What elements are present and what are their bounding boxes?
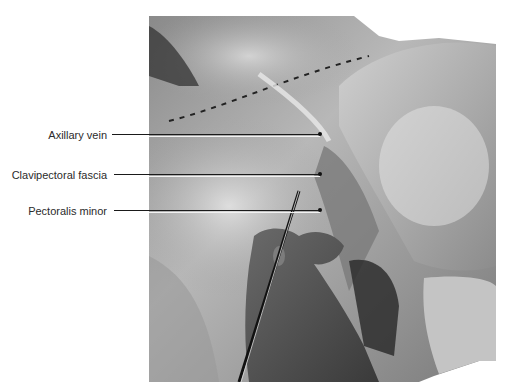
- label-pectoralis-minor: Pectoralis minor: [28, 205, 107, 217]
- leader-line-shadow: [149, 136, 320, 137]
- label-clavipectoral-fascia: Clavipectoral fascia: [12, 169, 107, 181]
- pointer-dot-pectoralis-minor: [318, 208, 322, 212]
- leader-line-shadow: [149, 176, 320, 177]
- pointer-dot-axillary-vein: [318, 132, 322, 136]
- label-axillary-vein: Axillary vein: [48, 129, 107, 141]
- pointer-dot-clavipectoral-fascia: [318, 172, 322, 176]
- leader-line-shadow: [149, 212, 320, 213]
- dissection-photo: [149, 16, 496, 382]
